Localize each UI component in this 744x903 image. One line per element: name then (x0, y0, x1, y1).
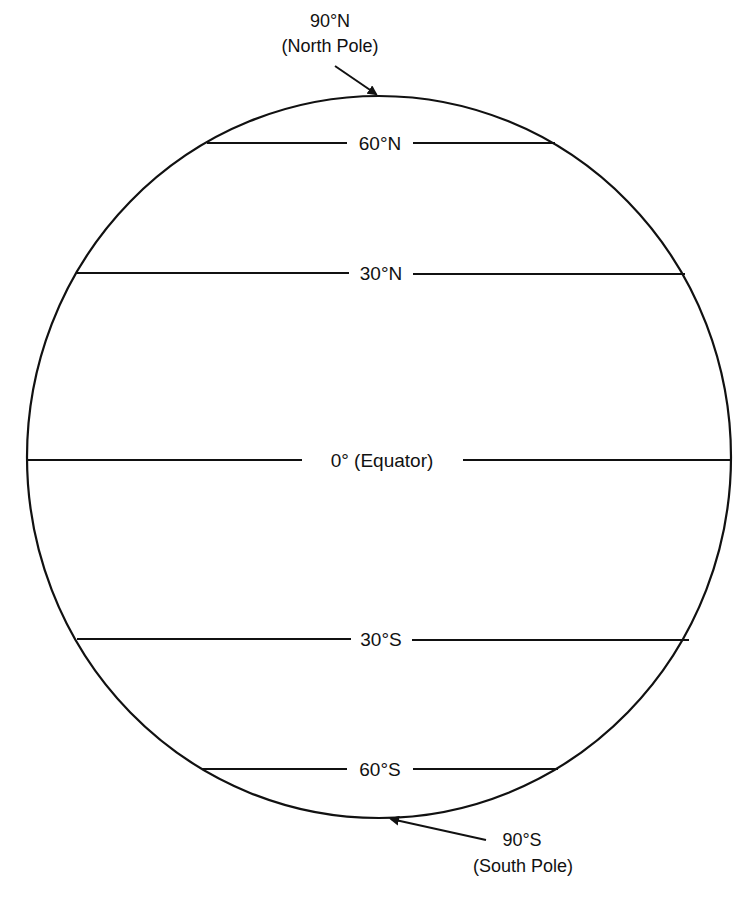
north-pole-arrow-icon (335, 66, 376, 94)
north-pole-annotation: 90°N (North Pole) (281, 11, 378, 94)
latitude-60s: 60°S (202, 759, 558, 780)
north-pole-name-label: (North Pole) (281, 36, 378, 56)
latitude-30n: 30°N (77, 263, 685, 284)
south-pole-name-label: (South Pole) (473, 856, 573, 876)
north-pole-degree-label: 90°N (310, 11, 350, 31)
latitude-30s: 30°S (77, 629, 689, 650)
globe-diagram: 60°N 30°N 0° (Equator) 30°S 60°S 90°N (N… (0, 0, 744, 903)
latitude-label-30n: 30°N (360, 263, 402, 284)
latitude-label-60s: 60°S (359, 759, 400, 780)
latitude-label-equator: 0° (Equator) (331, 450, 434, 471)
south-pole-degree-label: 90°S (502, 830, 541, 850)
south-pole-annotation: 90°S (South Pole) (391, 819, 573, 876)
latitude-label-30s: 30°S (360, 629, 401, 650)
latitude-equator: 0° (Equator) (27, 450, 731, 471)
south-pole-arrow-icon (391, 819, 486, 840)
latitude-label-60n: 60°N (359, 133, 401, 154)
latitude-60n: 60°N (207, 133, 555, 154)
